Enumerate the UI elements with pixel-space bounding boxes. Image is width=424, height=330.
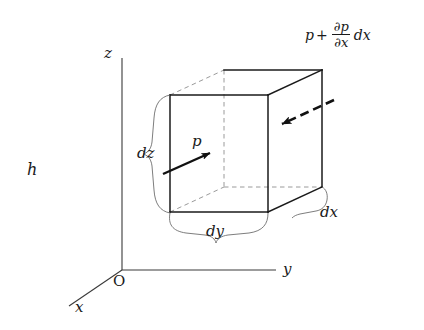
pressure-arrow-opposing [282,100,334,124]
formula-operator: + [316,28,328,42]
dimension-label-dy: dy [206,224,224,239]
formula-denominator: ∂x [332,34,350,49]
edge-bottom-right-receding [268,187,322,212]
origin-label: O [113,274,125,289]
edge-top-right-receding [268,70,322,95]
figure-canvas [0,0,424,330]
pressure-formula: p + ∂p ∂x dx [305,20,371,49]
y-axis-label: y [283,262,291,277]
formula-fraction: ∂p ∂x [332,20,351,49]
pressure-label-p: p [192,134,202,149]
x-axis-label: x [75,300,83,315]
dimension-label-dz: dz [137,146,155,161]
formula-differential: dx [354,28,371,42]
hidden-edge-back-bottom-left [170,187,224,212]
pressure-element-figure: z y x O h p dz dy dx p + ∂p ∂x dx [0,0,424,330]
formula-numerator: ∂p [332,20,351,34]
z-axis-label: z [104,46,112,61]
dimension-label-dx: dx [320,205,338,220]
formula-base: p [305,28,314,42]
depth-h-label: h [27,162,37,178]
hidden-edge-back-top-left [170,70,224,95]
